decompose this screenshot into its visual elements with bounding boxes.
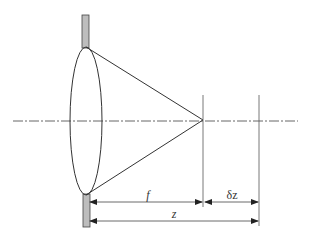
- aperture-stop-top: [82, 15, 89, 48]
- lens-focus-diagram: f δz z: [0, 0, 311, 240]
- z-label: z: [171, 207, 177, 221]
- ray-bottom: [86, 120, 203, 195]
- aperture-stop-bottom: [83, 194, 90, 227]
- ray-top: [86, 47, 203, 120]
- f-label: f: [146, 188, 151, 202]
- delta-z-label: δz: [227, 188, 238, 202]
